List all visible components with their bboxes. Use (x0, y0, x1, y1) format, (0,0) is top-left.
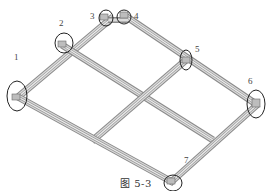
beam-bottom-right (170, 104, 258, 183)
callout-label-6: 6 (248, 77, 253, 86)
callout-label-5: 5 (195, 45, 200, 54)
callout-label-4: 4 (134, 12, 139, 21)
callout-label-3: 3 (90, 12, 95, 21)
callout-label-1: 1 (14, 53, 19, 62)
beam-left-bottom (18, 97, 174, 183)
frame-drawing (0, 0, 269, 191)
callout-label-2: 2 (59, 19, 64, 28)
figure-caption: 图 5-3 (120, 175, 152, 190)
beam-left-top (18, 17, 113, 97)
frame-diagram: 1 2 3 4 5 6 7 图 5-3 (0, 0, 269, 191)
callout-label-7: 7 (184, 156, 189, 165)
